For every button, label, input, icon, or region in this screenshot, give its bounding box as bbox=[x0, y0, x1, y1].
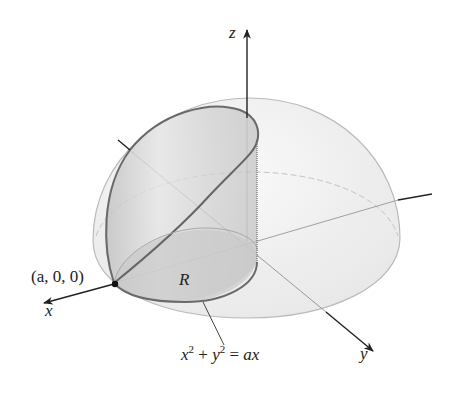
eq-equals: = bbox=[225, 345, 243, 364]
x-axis-label: x bbox=[45, 302, 53, 319]
y-axis-label: y bbox=[360, 345, 368, 362]
eq-rhs: ax bbox=[243, 345, 259, 364]
point-label-text: (a, 0, 0) bbox=[31, 267, 84, 286]
point-a-0-0 bbox=[112, 281, 118, 287]
cylinder-equation: x2 + y2 = ax bbox=[181, 346, 259, 363]
eq-x: x bbox=[181, 345, 189, 364]
region-label: R bbox=[179, 271, 189, 288]
eq-plus: + bbox=[194, 345, 212, 364]
y-axis-back-segment bbox=[118, 140, 130, 150]
eq-y: y bbox=[212, 345, 220, 364]
hemisphere-cylinder-diagram bbox=[0, 0, 463, 396]
z-axis-label: z bbox=[229, 24, 236, 41]
point-label: (a, 0, 0) bbox=[31, 268, 84, 285]
back-axis-line bbox=[398, 194, 432, 200]
x-axis bbox=[44, 284, 114, 303]
